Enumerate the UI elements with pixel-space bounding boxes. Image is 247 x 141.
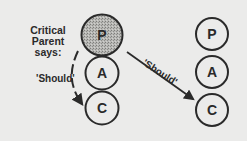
left-child-letter: C (97, 100, 107, 116)
left-parent-letter: P (97, 27, 106, 43)
right-adult-letter: A (207, 64, 217, 80)
right-parent-letter: P (207, 26, 216, 42)
left-adult-letter: A (97, 65, 107, 81)
right-child-letter: C (207, 102, 217, 118)
left-should-arrow (72, 51, 82, 104)
ego-state-diagram: P A C P A C (0, 0, 247, 141)
right-should-arrow (127, 52, 193, 99)
